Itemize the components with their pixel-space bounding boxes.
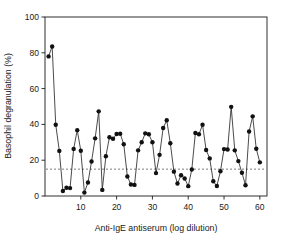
data-point-marker [229,105,233,109]
data-point-marker [150,140,154,144]
data-point-marker [186,184,190,188]
data-point-marker [71,147,75,151]
data-point-marker [50,44,54,48]
data-point-marker [208,156,212,160]
data-point-marker [157,153,161,157]
data-point-marker [61,189,65,193]
data-point-marker [179,173,183,177]
y-tick-label: 80 [30,48,40,58]
data-point-marker [154,171,158,175]
y-tick-label: 20 [30,155,40,165]
basophil-degranulation-chart: 020406080100 102030405060 Anti-IgE antis… [0,0,283,242]
data-point-marker [54,123,58,127]
x-axis-title: Anti-IgE antiserum (log dilution) [95,223,218,233]
x-axis-ticks: 102030405060 [76,196,265,212]
data-point-marker [122,142,126,146]
data-point-marker [68,186,72,190]
x-tick-label: 20 [112,202,122,212]
data-point-marker [97,109,101,113]
y-axis-title: Basophil degranulation (%) [3,53,13,159]
data-point-marker [75,128,79,132]
data-point-marker [175,181,179,185]
data-point-marker [118,132,122,136]
x-tick-label: 50 [219,202,229,212]
data-point-marker [132,183,136,187]
data-point-marker [236,159,240,163]
data-point-marker [100,188,104,192]
data-point-marker [172,169,176,173]
data-point-marker [233,148,237,152]
data-point-marker [200,123,204,127]
data-point-marker [104,154,108,158]
data-point-marker [161,126,165,130]
x-tick-label: 10 [76,202,86,212]
data-point-marker [93,136,97,140]
data-point-marker [136,148,140,152]
data-point-marker [111,137,115,141]
y-tick-label: 0 [34,191,39,201]
data-point-marker [240,171,244,175]
data-point-marker [225,147,229,151]
data-point-marker [125,174,129,178]
data-point-marker [190,167,194,171]
data-point-marker [86,180,90,184]
y-tick-label: 40 [30,119,40,129]
x-tick-label: 40 [183,202,193,212]
data-point-marker [247,129,251,133]
y-tick-label: 60 [30,84,40,94]
chart-page: 020406080100 102030405060 Anti-IgE antis… [0,0,283,242]
y-axis-ticks: 020406080100 [25,12,45,201]
data-point-marker [250,114,254,118]
data-point-marker [182,176,186,180]
data-point-marker [243,183,247,187]
data-point-marker [258,160,262,164]
data-point-marker [215,184,219,188]
y-tick-label: 100 [25,12,39,22]
x-tick-label: 60 [255,202,265,212]
data-point-marker [57,149,61,153]
data-point-marker [211,179,215,183]
data-point-marker [197,132,201,136]
data-point-marker [165,118,169,122]
data-point-marker [147,132,151,136]
data-point-marker [168,141,172,145]
data-point-marker [218,169,222,173]
data-point-marker [204,148,208,152]
data-point-marker [82,190,86,194]
data-point-marker [139,140,143,144]
x-tick-label: 30 [148,202,158,212]
data-point-marker [89,159,93,163]
data-point-marker [46,54,50,58]
data-point-marker [254,147,258,151]
data-point-marker [79,149,83,153]
